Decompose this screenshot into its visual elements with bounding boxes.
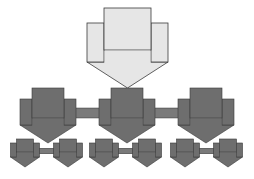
left-side-block (90, 143, 96, 157)
main-box (139, 139, 156, 152)
box-lower-fill (220, 152, 236, 157)
node-level3-b1 (90, 139, 119, 167)
node-level3-c1 (171, 139, 200, 167)
right-side-block (77, 143, 83, 157)
left-side-block (20, 99, 32, 125)
main-box (177, 139, 194, 152)
left-side-block (214, 143, 220, 157)
left-side-block (11, 143, 17, 157)
node-root (87, 8, 168, 88)
nodes (11, 8, 243, 167)
main-box (32, 88, 64, 118)
box-lower-fill (190, 118, 221, 125)
node-level2-c (178, 88, 234, 143)
left-side-block (99, 99, 111, 125)
main-box (104, 8, 151, 50)
node-level3-a1 (11, 139, 40, 167)
box-lower-fill (96, 152, 112, 157)
right-side-block (151, 23, 168, 62)
box-lower-fill (104, 50, 150, 62)
box-lower-fill (60, 152, 76, 157)
right-side-block (34, 143, 40, 157)
main-box (190, 88, 222, 118)
left-side-block (133, 143, 139, 157)
right-side-block (113, 143, 119, 157)
right-side-block (222, 99, 234, 125)
left-side-block (54, 143, 60, 157)
main-box (96, 139, 113, 152)
main-box (220, 139, 237, 152)
main-box (17, 139, 34, 152)
main-box (111, 88, 143, 118)
main-box (60, 139, 77, 152)
node-level2-b (99, 88, 155, 143)
box-lower-fill (17, 152, 33, 157)
box-lower-fill (111, 118, 142, 125)
box-lower-fill (32, 118, 63, 125)
right-side-block (64, 99, 76, 125)
connector-level2-b-level2-c (154, 108, 179, 118)
box-lower-fill (177, 152, 193, 157)
left-side-block (87, 23, 104, 62)
box-lower-fill (139, 152, 155, 157)
connector-level3-b1-level3-b2 (118, 148, 134, 153)
connector-level3-a1-level3-a2 (39, 148, 55, 153)
left-side-block (178, 99, 190, 125)
right-side-block (194, 143, 200, 157)
hierarchy-diagram (0, 0, 254, 179)
node-level2-a (20, 88, 76, 143)
left-side-block (171, 143, 177, 157)
node-level3-b2 (133, 139, 162, 167)
right-side-block (143, 99, 155, 125)
connector-level2-a-level2-b (75, 108, 100, 118)
connector-level3-c1-level3-c2 (199, 148, 215, 153)
node-level3-c2 (214, 139, 243, 167)
node-level3-a2 (54, 139, 83, 167)
right-side-block (156, 143, 162, 157)
right-side-block (237, 143, 243, 157)
